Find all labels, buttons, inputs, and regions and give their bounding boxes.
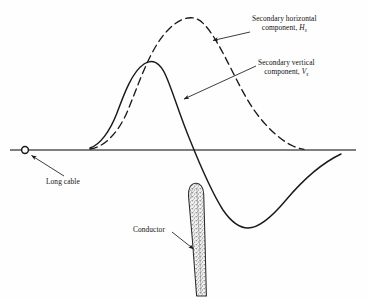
label-hs-subscript: s — [305, 27, 307, 33]
leader-line-conductor — [172, 232, 194, 249]
label-conductor: Conductor — [133, 225, 165, 234]
label-hs-line2: component, Hs — [252, 23, 317, 33]
curve-secondary-horizontal-component — [90, 18, 304, 150]
figure-container: Secondary horizontal component, Hs Secon… — [0, 0, 367, 299]
label-vs-line1: Secondary vertical — [258, 58, 315, 67]
label-secondary-horizontal-component: Secondary horizontal component, Hs — [252, 14, 317, 33]
label-hs-line1: Secondary horizontal — [252, 14, 317, 23]
label-hs-symbol: H — [299, 23, 304, 32]
label-vs-subscript: s — [306, 71, 308, 77]
label-vs-prefix: component, — [264, 67, 301, 76]
leader-line-secondary-horizontal — [213, 32, 250, 41]
label-long-cable: Long cable — [46, 177, 80, 186]
curve-secondary-vertical-component — [90, 62, 341, 228]
conductor-body — [188, 183, 206, 296]
label-secondary-vertical-component: Secondary vertical component, Vs — [258, 58, 315, 77]
diagram-canvas — [0, 0, 367, 299]
long-cable-marker-icon — [22, 147, 29, 154]
leader-line-long-cable — [32, 156, 65, 177]
label-vs-line2: component, Vs — [258, 67, 315, 77]
label-hs-prefix: component, — [262, 23, 299, 32]
leader-line-secondary-vertical — [184, 66, 256, 99]
